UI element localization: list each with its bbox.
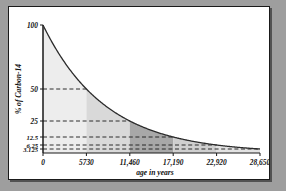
figure-container: 100502512.56.253.125 0573011,46017,19022…: [0, 0, 286, 191]
y-axis-title: % of Carbon-14: [14, 64, 23, 114]
y-tick-label-25: 25: [30, 117, 39, 126]
x-axis-title: age in years: [136, 168, 174, 177]
carbon-14-decay-chart: 100502512.56.253.125 0573011,46017,19022…: [9, 7, 269, 179]
x-tick-label-17,190: 17,190: [163, 158, 184, 167]
x-tick-label-0: 0: [41, 158, 45, 167]
x-tick-label-5730: 5730: [79, 158, 94, 167]
x-tick-label-28,650: 28,650: [249, 158, 269, 167]
x-tick-label-22,920: 22,920: [205, 158, 227, 167]
y-tick-label-100: 100: [27, 21, 38, 30]
y-tick-label-50: 50: [31, 85, 39, 94]
chart-panel: 100502512.56.253.125 0573011,46017,19022…: [8, 6, 270, 180]
x-axis-tick-labels: 0573011,46017,19022,92028,650: [41, 158, 269, 167]
y-axis-tick-labels: 100502512.56.253.125: [22, 21, 39, 153]
y-tick-label-12.5: 12.5: [26, 134, 38, 141]
shaded-regions-group: [43, 25, 260, 153]
y-tick-label-3.125: 3.125: [22, 146, 39, 153]
x-tick-label-11,460: 11,460: [120, 158, 140, 167]
